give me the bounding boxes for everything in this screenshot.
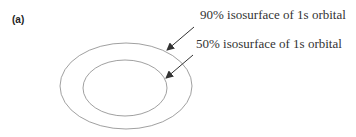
arrow-50 — [166, 55, 193, 78]
arrow-90 — [167, 27, 194, 50]
inner-isosurface-50 — [83, 60, 167, 116]
callout-90-percent: 90% isosurface of 1s orbital — [200, 7, 346, 23]
callout-50-percent: 50% isosurface of 1s orbital — [196, 36, 342, 52]
